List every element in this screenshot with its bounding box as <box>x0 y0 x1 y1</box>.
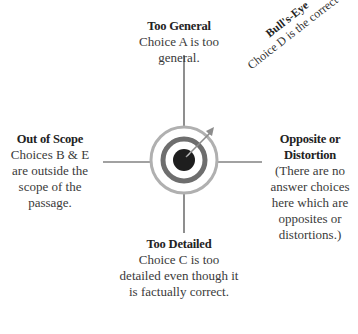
too-detailed-label: Too Detailed Choice C is too detailed ev… <box>118 236 240 300</box>
out-of-scope-title: Out of Scope <box>4 131 96 147</box>
opposite-distortion-description: (There are no answer choices here which … <box>262 163 358 243</box>
out-of-scope-description: Choices B & E are outside the scope of t… <box>4 147 96 211</box>
too-general-description: Choice A is too general. <box>118 34 240 66</box>
too-detailed-description: Choice C is too detailed even though it … <box>118 252 240 300</box>
too-general-label: Too General Choice A is too general. <box>118 18 240 66</box>
opposite-distortion-title: Opposite or Distortion <box>262 131 358 163</box>
opposite-distortion-label: Opposite or Distortion (There are no ans… <box>262 131 358 243</box>
too-detailed-title: Too Detailed <box>118 236 240 252</box>
out-of-scope-label: Out of Scope Choices B & E are outside t… <box>4 131 96 211</box>
answer-choice-target-diagram: Too General Choice A is too general. Out… <box>0 0 358 334</box>
too-general-title: Too General <box>118 18 240 34</box>
